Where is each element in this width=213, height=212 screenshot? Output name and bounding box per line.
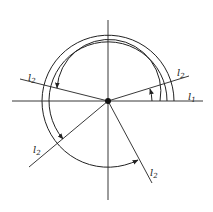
label-l2-upper-right: l2 (177, 67, 185, 80)
label-l2-lower-right: l2 (150, 167, 158, 180)
label-l1: l1 (188, 91, 196, 104)
ray-l2-lower-right (108, 101, 152, 183)
arc-angle-small (150, 89, 152, 101)
center-point (105, 98, 111, 104)
label-l2-lower-left: l2 (33, 144, 41, 157)
label-l2-upper-left: l2 (28, 72, 36, 85)
ray-l2-lower-left (29, 101, 108, 167)
ray-l2-upper-right (108, 76, 189, 101)
angle-rotation-diagram: l1 l2 l2 l2 l2 (0, 0, 213, 212)
diagram-canvas: l1 l2 l2 l2 l2 (0, 0, 213, 212)
